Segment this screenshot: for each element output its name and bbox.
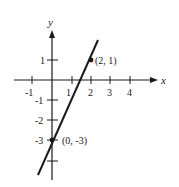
data-point: [89, 58, 94, 63]
line-chart: x y -1 1 2 3 4 1 -1: [0, 0, 179, 187]
y-tick-labels: 1 -1 -2 -3: [35, 55, 45, 146]
x-tick-label: 2: [88, 87, 93, 98]
data-point: [50, 138, 55, 143]
y-tick-label: -2: [35, 115, 43, 126]
x-tick-label: 3: [107, 87, 112, 98]
y-tick-label: -1: [35, 95, 43, 106]
y-tick-label: -3: [35, 135, 43, 146]
y-tick-label: 1: [40, 55, 45, 66]
point-label: (2, 1): [95, 55, 117, 67]
x-axis-label: x: [160, 74, 166, 86]
y-axis-arrow-icon: [49, 30, 55, 38]
point-label: (0, -3): [62, 135, 87, 147]
x-tick-label: -1: [25, 87, 33, 98]
x-tick-label: 1: [66, 87, 71, 98]
x-axis-arrow-icon: [150, 77, 158, 83]
x-tick-label: 4: [127, 87, 132, 98]
chart-container: x y -1 1 2 3 4 1 -1: [0, 0, 179, 187]
y-axis-label: y: [47, 16, 53, 28]
